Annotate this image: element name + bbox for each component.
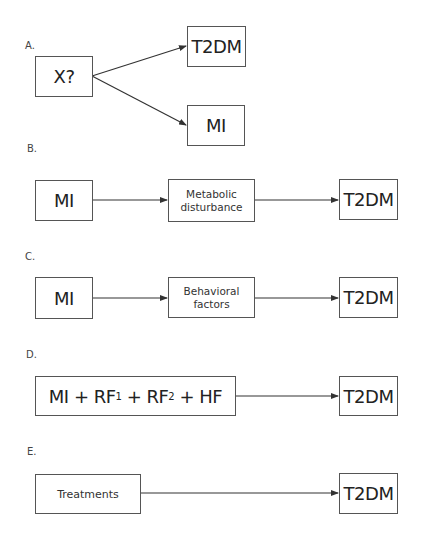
panel-e-t2dm-box: T2DM bbox=[339, 473, 398, 514]
arrow-a-to-mi bbox=[92, 76, 186, 125]
panel-c-t2dm-box: T2DM bbox=[339, 277, 398, 318]
panel-d-t2dm-box: T2DM bbox=[339, 376, 398, 416]
panel-d-label: D. bbox=[26, 349, 37, 360]
panel-e-label: E. bbox=[27, 446, 37, 457]
mediator-line-2: factors bbox=[193, 298, 229, 311]
panel-a-source-box: X? bbox=[35, 56, 93, 97]
source-plus-rf: + RF bbox=[121, 386, 168, 407]
panel-a-mi-box: MI bbox=[187, 105, 245, 146]
panel-a-t2dm-box: T2DM bbox=[187, 26, 246, 67]
panel-c-label: C. bbox=[25, 251, 35, 262]
panel-e-treatments-box: Treatments bbox=[35, 474, 141, 514]
mediator-line-1: Metabolic bbox=[186, 188, 237, 201]
source-mi-rf: MI + RF bbox=[49, 386, 116, 407]
panel-b-label: B. bbox=[27, 143, 37, 154]
panel-a-label: A. bbox=[25, 40, 35, 51]
source-plus-hf: + HF bbox=[174, 386, 222, 407]
panel-b-mediator-box: Metabolic disturbance bbox=[168, 179, 255, 222]
mediator-line-2: disturbance bbox=[180, 201, 242, 214]
panel-d-source-box: MI + RF1 + RF2 + HF bbox=[35, 376, 236, 416]
panel-c-mi-box: MI bbox=[35, 277, 93, 319]
panel-c-mediator-box: Behavioral factors bbox=[168, 277, 255, 318]
panel-b-mi-box: MI bbox=[35, 180, 93, 221]
mediator-line-1: Behavioral bbox=[184, 285, 240, 298]
panel-b-t2dm-box: T2DM bbox=[339, 179, 398, 220]
arrow-a-to-t2dm bbox=[92, 46, 186, 76]
